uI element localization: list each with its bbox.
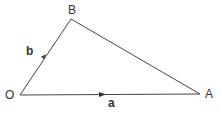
point-label-O: O [5,89,14,101]
point-label-A: A [205,88,213,100]
edge-B-A [71,19,200,94]
point-label-B: B [68,4,76,16]
arrowhead-a-icon [99,92,106,97]
vector-label-b: b [26,45,33,57]
edge-O-A [20,94,200,95]
vector-diagram: O B A b a [0,0,221,122]
vector-label-a: a [108,97,115,109]
